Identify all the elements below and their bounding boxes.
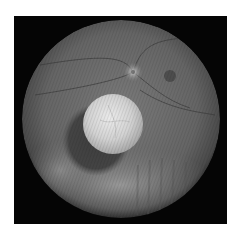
fundus-image <box>0 0 239 235</box>
